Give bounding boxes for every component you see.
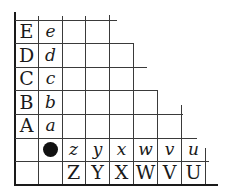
staircase-board: E D C B A e d c b a z y x w v u Z Y X W …	[0, 0, 228, 194]
label-D: D	[15, 44, 38, 67]
board-bottom-border	[14, 184, 218, 186]
label-C: C	[15, 67, 38, 90]
label-B: B	[15, 91, 38, 114]
label-a: a	[39, 114, 62, 137]
label-y: y	[86, 138, 109, 161]
label-e: e	[39, 20, 62, 43]
label-w: w	[134, 138, 157, 161]
grid-line-v8	[205, 148, 206, 184]
label-Z: Z	[62, 161, 85, 184]
label-v: v	[158, 138, 181, 161]
black-stone-icon	[43, 142, 58, 157]
black-stone-cell[interactable]	[39, 138, 62, 161]
label-c: c	[39, 67, 62, 90]
label-U: U	[182, 161, 205, 184]
label-x: x	[110, 138, 133, 161]
label-E: E	[15, 20, 38, 43]
label-V: V	[158, 161, 181, 184]
label-z: z	[62, 138, 85, 161]
label-Y: Y	[86, 161, 109, 184]
label-u: u	[182, 138, 205, 161]
label-b: b	[39, 91, 62, 114]
label-d: d	[39, 44, 62, 67]
label-X: X	[110, 161, 133, 184]
label-W: W	[134, 161, 157, 184]
label-A: A	[15, 114, 38, 137]
